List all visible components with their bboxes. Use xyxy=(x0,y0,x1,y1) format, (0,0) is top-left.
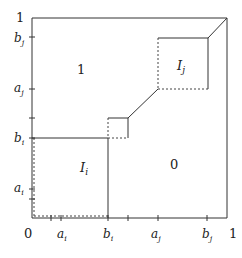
x-label-ai: ai xyxy=(57,227,67,243)
diagonal-segment xyxy=(128,89,158,118)
diagram-canvas: 1 bj aj bi ai 0 ai bi aj bj 1 1 0 Ii Ij xyxy=(0,0,242,258)
box-i-label: Ii xyxy=(79,160,88,177)
x-label-one: 1 xyxy=(229,226,237,241)
region-upper-label: 1 xyxy=(77,62,85,77)
region-lower-label: 0 xyxy=(170,157,178,172)
y-label-aj: aj xyxy=(14,81,24,97)
x-label-bj: bj xyxy=(202,227,213,243)
corner-diagonal xyxy=(208,18,227,38)
x-label-origin: 0 xyxy=(24,226,32,241)
y-label-one: 1 xyxy=(16,10,24,25)
y-label-ai: ai xyxy=(14,181,24,197)
x-label-bi: bi xyxy=(103,227,114,243)
box-j-label: Ij xyxy=(176,58,185,75)
y-label-bi: bi xyxy=(14,131,25,147)
y-label-bj: bj xyxy=(14,31,25,47)
x-label-aj: aj xyxy=(151,227,161,243)
